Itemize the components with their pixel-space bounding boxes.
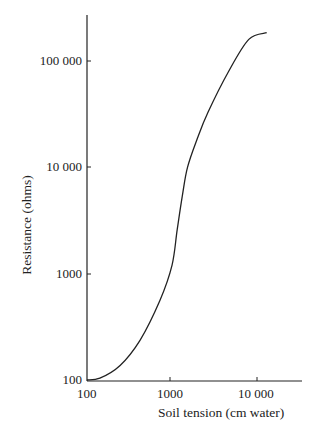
x-tick-label: 100	[77, 386, 97, 402]
x-tick-label: 1000	[157, 386, 183, 402]
y-tick-label: 10 000	[12, 159, 82, 175]
y-axis-title: Resistance (ohms)	[19, 175, 35, 274]
x-axis-title: Soil tension (cm water)	[158, 405, 284, 421]
y-tick-label: 100	[12, 372, 82, 388]
y-tick-label: 100 000	[12, 53, 82, 69]
data-curve	[87, 33, 267, 380]
x-tick-label: 10 000	[238, 386, 274, 402]
